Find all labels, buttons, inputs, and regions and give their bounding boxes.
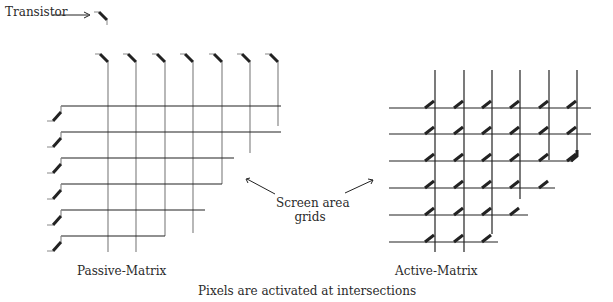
transistor-icon xyxy=(53,112,61,121)
transistor-icon xyxy=(482,101,491,108)
transistor-label: Transistor xyxy=(5,5,68,19)
transistor-icon xyxy=(510,127,519,134)
transistor-icon xyxy=(270,54,278,62)
transistor-icon xyxy=(185,54,193,62)
matrix-diagram xyxy=(0,0,613,302)
transistor-icon xyxy=(567,101,576,108)
transistor-icon xyxy=(99,12,107,20)
transistor-icon xyxy=(53,190,61,199)
transistor-icon xyxy=(53,216,61,225)
screen-area-line1: Screen area xyxy=(276,196,344,210)
transistor-icon xyxy=(482,127,491,134)
passive-matrix-label: Passive-Matrix xyxy=(77,264,166,278)
transistor-icon xyxy=(510,154,519,161)
transistor-icon xyxy=(567,127,576,134)
transistor-icon xyxy=(425,127,434,134)
transistor-icon xyxy=(454,235,463,242)
transistor-icon xyxy=(482,181,491,188)
transistor-icon xyxy=(425,235,434,242)
transistor-icon xyxy=(539,181,548,188)
transistor-icon xyxy=(425,181,434,188)
transistor-icon xyxy=(100,54,108,62)
transistor-icon xyxy=(425,154,434,161)
transistor-icon xyxy=(454,101,463,108)
arrow-icon xyxy=(345,180,373,193)
transistor-icon xyxy=(510,101,519,108)
transistor-icon xyxy=(454,181,463,188)
transistor-icon xyxy=(454,127,463,134)
transistor-icon xyxy=(510,208,519,215)
transistor-icon xyxy=(510,181,519,188)
transistor-icon xyxy=(482,235,491,242)
transistor-icon xyxy=(539,101,548,108)
transistor-icon xyxy=(454,154,463,161)
arrow-icon xyxy=(247,179,275,194)
transistor-icon xyxy=(53,242,61,251)
transistor-icon xyxy=(425,101,434,108)
screen-area-line2: grids xyxy=(276,210,344,224)
transistor-icon xyxy=(482,208,491,215)
screen-area-label: Screen area grids xyxy=(276,196,344,224)
transistor-icon xyxy=(128,54,136,62)
transistor-icon xyxy=(425,208,434,215)
transistor-icon xyxy=(242,54,250,62)
active-matrix-label: Active-Matrix xyxy=(395,264,478,278)
transistor-icon xyxy=(482,154,491,161)
transistor-icon xyxy=(214,54,222,62)
transistor-icon xyxy=(539,154,548,161)
caption: Pixels are activated at intersections xyxy=(198,284,416,298)
transistor-icon xyxy=(157,54,165,62)
transistor-icon xyxy=(539,127,548,134)
transistor-icon xyxy=(53,164,61,173)
transistor-icon xyxy=(454,208,463,215)
transistor-icon xyxy=(53,138,61,147)
